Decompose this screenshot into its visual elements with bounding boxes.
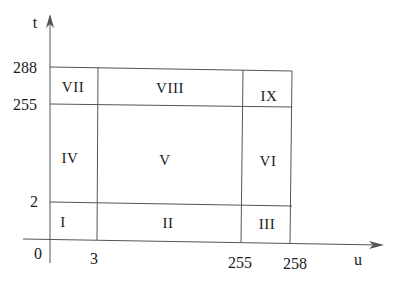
line-u-258 (290, 71, 292, 243)
region-I: I (60, 215, 66, 230)
region-II: II (163, 216, 174, 231)
line-u-3 (97, 67, 98, 240)
line-u-255 (241, 70, 243, 242)
u-axis-label: u (354, 252, 362, 268)
t-tick-0: 0 (34, 246, 42, 262)
region-IV: IV (62, 151, 79, 166)
line-t-288 (50, 67, 292, 71)
partition-diagram: t u 0 2 255 288 3 255 258 I II III IV V … (0, 0, 408, 287)
region-III: III (259, 217, 276, 232)
t-tick-2: 2 (30, 194, 38, 210)
t-axis-label: t (33, 15, 37, 31)
line-t-2 (50, 202, 292, 206)
u-tick-3: 3 (90, 251, 98, 267)
diagram-lines (0, 0, 408, 287)
region-VII: VII (62, 80, 84, 95)
line-t-255 (50, 104, 292, 107)
region-IX: IX (261, 89, 278, 104)
region-V: V (159, 153, 170, 168)
u-tick-255: 255 (228, 255, 252, 271)
region-VIII: VIII (156, 81, 184, 96)
region-VI: VI (260, 154, 277, 169)
u-tick-258: 258 (283, 256, 307, 272)
u-axis (23, 239, 381, 245)
t-tick-255: 255 (13, 97, 37, 113)
t-tick-288: 288 (13, 60, 37, 76)
